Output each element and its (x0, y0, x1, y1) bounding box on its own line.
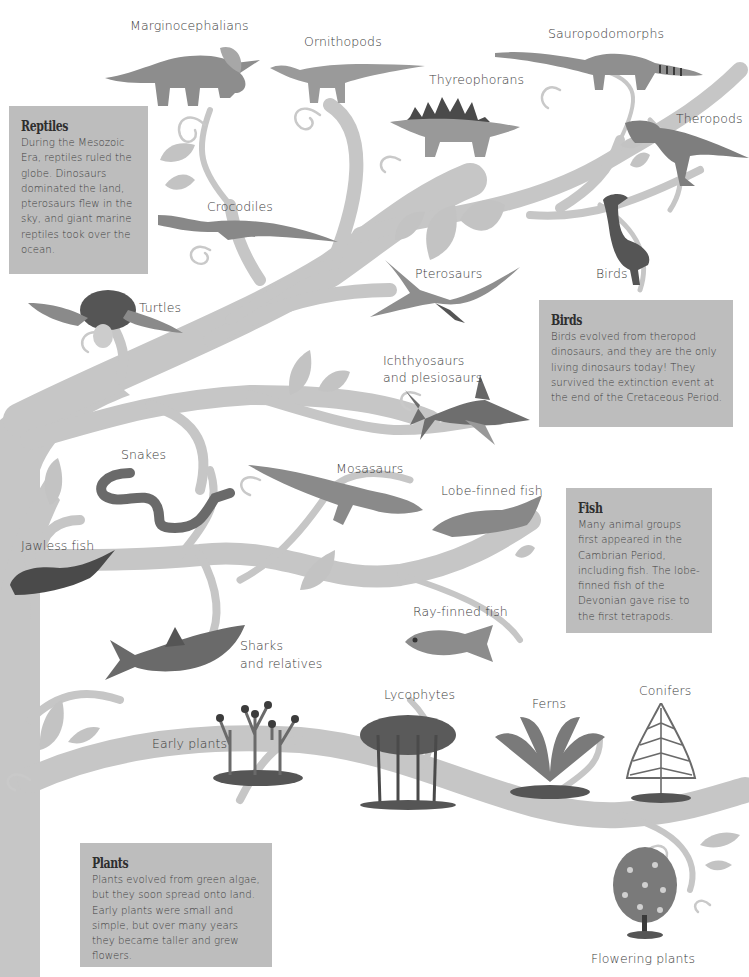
label-early-plants: Early plants (152, 735, 227, 752)
label-marginocephalians: Marginocephalians (130, 17, 249, 34)
label-jawless-fish: Jawless fish (21, 537, 94, 554)
stegosaurus-illustration (390, 92, 530, 162)
shark-illustration (105, 625, 245, 685)
info-box-birds: Birds Birds evolved from theropod dinosa… (539, 300, 733, 427)
label-crocodiles: Crocodiles (207, 198, 273, 215)
label-sharks-relatives: and relatives (240, 655, 322, 672)
label-snakes: Snakes (121, 446, 166, 463)
sauropod-illustration (495, 45, 705, 95)
info-box-fish: Fish Many animal groups first appeared i… (566, 488, 712, 633)
label-flowering-plants: Flowering plants (591, 950, 695, 967)
label-conifers: Conifers (639, 682, 691, 699)
label-ornithopods: Ornithopods (304, 33, 382, 50)
label-birds: Birds (596, 265, 628, 282)
info-box-reptiles: Reptiles During the Mesozoic Era, reptil… (9, 106, 148, 274)
info-title-reptiles: Reptiles (21, 118, 112, 134)
info-text-reptiles: During the Mesozoic Era, reptiles ruled … (21, 135, 138, 257)
ray-finned-fish-illustration (405, 622, 495, 662)
label-lobe-finned-fish: Lobe-finned fish (441, 482, 543, 499)
info-title-fish: Fish (578, 500, 675, 516)
lycophytes-illustration (358, 705, 458, 810)
info-text-plants: Plants evolved from green algae, but the… (92, 872, 262, 964)
label-theropods: Theropods (676, 110, 743, 127)
label-sharks: Sharks (240, 637, 283, 654)
label-lycophytes: Lycophytes (384, 686, 455, 703)
conifer-illustration (625, 703, 697, 803)
lobe-finned-fish-illustration (432, 495, 542, 540)
label-pterosaurs: Pterosaurs (415, 265, 482, 282)
flowering-tree-illustration (605, 845, 685, 940)
info-text-fish: Many animal groups first appeared in the… (578, 517, 702, 624)
info-title-birds: Birds (551, 312, 685, 328)
crocodile-illustration (158, 210, 338, 245)
label-ray-finned-fish: Ray-finned fish (413, 603, 508, 620)
jawless-fish-illustration (10, 550, 115, 600)
t-rex-illustration (625, 118, 749, 188)
label-turtles: Turtles (139, 299, 181, 316)
info-title-plants: Plants (92, 855, 225, 871)
label-ferns: Ferns (532, 695, 566, 712)
info-text-birds: Birds evolved from theropod dinosaurs, a… (551, 329, 723, 405)
triceratops-illustration (100, 38, 280, 108)
info-box-plants: Plants Plants evolved from green algae, … (80, 843, 272, 967)
label-ichthyosaurs: Ichthyosaurs (383, 352, 464, 369)
label-mosasaurs: Mosasaurs (336, 460, 403, 477)
label-thyreophorans: Thyreophorans (429, 71, 524, 88)
label-sauropodomorphs: Sauropodomorphs (548, 25, 664, 42)
snake-illustration (95, 468, 235, 538)
fern-illustration (490, 712, 610, 802)
label-plesiosaurs: and plesiosaurs (383, 369, 482, 386)
